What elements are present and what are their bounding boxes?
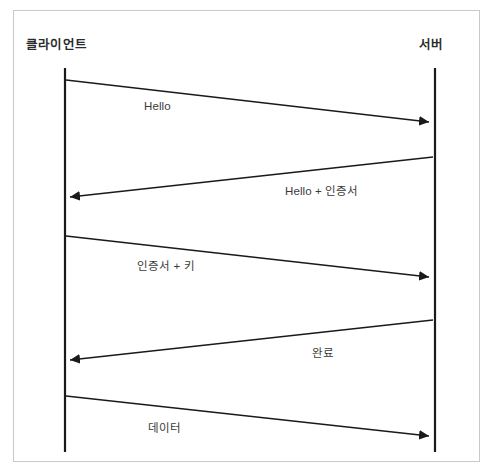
sequence-diagram: 클라이언트 서버 Hello Hello + 인증서 인증서 + 키 완료 데이… xyxy=(0,0,493,475)
message-label-1: Hello xyxy=(144,100,171,112)
message-label-3: 인증서 + 키 xyxy=(137,257,195,273)
message-arrow-2 xyxy=(70,157,433,197)
message-arrow-5 xyxy=(66,396,429,436)
message-arrow-4 xyxy=(70,320,433,360)
message-arrow-1 xyxy=(66,80,429,122)
message-label-5: 데이터 xyxy=(148,419,181,435)
lifelines xyxy=(65,68,435,452)
message-label-4: 완료 xyxy=(312,344,334,360)
diagram-canvas xyxy=(0,0,493,475)
message-arrow-3 xyxy=(66,236,429,277)
message-label-2: Hello + 인증서 xyxy=(285,182,358,198)
message-arrows xyxy=(66,80,433,436)
